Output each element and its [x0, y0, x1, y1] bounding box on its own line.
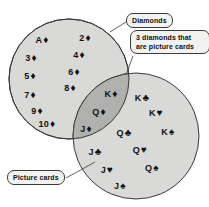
card-rank: 9	[31, 106, 36, 116]
leader-line-diamonds	[110, 22, 126, 32]
card-picture-k-1: K♥	[149, 108, 163, 118]
card-rank: Q	[92, 107, 99, 117]
card-suit-icon: ♦	[85, 32, 90, 43]
card-suit-icon: ♦	[30, 89, 35, 100]
card-suit-icon: ♠	[153, 162, 159, 173]
card-rank: Q	[133, 145, 140, 155]
card-rank: J	[101, 165, 106, 175]
card-diamond-number-5-4: 5♦	[24, 71, 36, 81]
card-picture-j-8: J♠	[114, 181, 126, 191]
card-picture-k-0: K♣	[135, 93, 150, 103]
card-picture-j-6: J♥	[101, 165, 114, 175]
card-diamond-number-3-2: 3♦	[25, 53, 37, 63]
card-picture-q-2: Q♣	[116, 128, 131, 138]
card-picture-j-4: J♣	[88, 147, 101, 157]
card-suit-icon: ♥	[141, 144, 147, 155]
card-rank: J	[88, 147, 93, 157]
card-diamond-number-a-0: A♦	[35, 35, 48, 45]
card-suit-icon: ♣	[142, 92, 149, 103]
card-rank: J	[114, 181, 119, 191]
venn-diagram-figure: A♦2♦3♦4♦5♦6♦7♦8♦9♦10♦K♦Q♦J♦K♣K♥Q♣K♠J♣Q♥J…	[0, 0, 209, 207]
card-rank: Q	[116, 128, 123, 138]
card-diamond-picture-k-0: K♦	[104, 89, 117, 99]
card-suit-icon: ♦	[112, 88, 117, 99]
card-rank: 4	[73, 50, 78, 60]
card-rank: 6	[68, 67, 73, 77]
card-rank: K	[135, 93, 142, 103]
card-rank: K	[161, 127, 168, 137]
card-suit-icon: ♦	[86, 123, 91, 134]
card-diamond-picture-j-2: J♦	[80, 124, 92, 134]
card-diamond-number-2-1: 2♦	[79, 33, 91, 43]
card-rank: Q	[145, 163, 152, 173]
card-suit-icon: ♦	[31, 52, 36, 63]
card-diamond-picture-q-1: Q♦	[92, 107, 106, 117]
callout-picture-cards: Picture cards	[7, 170, 65, 185]
card-picture-q-5: Q♥	[133, 145, 148, 155]
card-picture-q-7: Q♠	[145, 163, 159, 173]
card-rank: 2	[79, 33, 84, 43]
callout-intersection: 3 diamonds that are picture cards	[130, 30, 209, 54]
card-suit-icon: ♦	[100, 106, 105, 117]
card-suit-icon: ♥	[157, 107, 163, 118]
card-suit-icon: ♣	[95, 146, 102, 157]
card-suit-icon: ♦	[74, 66, 79, 77]
card-diamond-number-8-7: 8♦	[64, 83, 76, 93]
card-rank: K	[149, 108, 156, 118]
card-diamond-number-9-8: 9♦	[31, 106, 43, 116]
card-suit-icon: ♦	[43, 34, 48, 45]
card-suit-icon: ♣	[125, 127, 132, 138]
card-rank: 3	[25, 53, 30, 63]
card-rank: A	[35, 35, 42, 45]
card-suit-icon: ♠	[120, 180, 126, 191]
card-picture-k-3: K♠	[161, 127, 174, 137]
card-rank: J	[80, 124, 85, 134]
card-suit-icon: ♦	[30, 70, 35, 81]
card-suit-icon: ♦	[50, 118, 55, 129]
card-suit-icon: ♦	[37, 105, 42, 116]
card-rank: 8	[64, 83, 69, 93]
card-diamond-number-6-5: 6♦	[68, 67, 80, 77]
card-rank: K	[104, 89, 111, 99]
callout-diamonds: Diamonds	[126, 13, 173, 28]
card-rank: 5	[24, 71, 29, 81]
card-diamond-number-4-3: 4♦	[73, 50, 85, 60]
card-diamond-number-10-9: 10♦	[38, 119, 55, 129]
card-rank: 7	[24, 90, 29, 100]
card-suit-icon: ♥	[107, 164, 113, 175]
card-rank: 10	[38, 119, 49, 129]
card-suit-icon: ♦	[70, 82, 75, 93]
card-suit-icon: ♠	[169, 126, 175, 137]
card-diamond-number-7-6: 7♦	[24, 90, 36, 100]
card-suit-icon: ♦	[79, 49, 84, 60]
